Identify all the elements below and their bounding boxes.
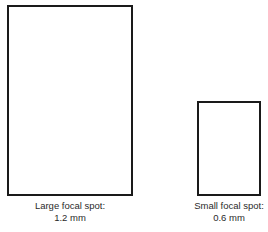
large-focal-spot-title: Large focal spot: xyxy=(20,200,120,212)
small-focal-spot-rect xyxy=(197,101,261,196)
small-focal-spot-label: Small focal spot: 0.6 mm xyxy=(186,200,268,224)
large-focal-spot-label: Large focal spot: 1.2 mm xyxy=(20,200,120,224)
large-focal-spot-value: 1.2 mm xyxy=(20,212,120,224)
large-focal-spot-rect xyxy=(7,5,133,196)
small-focal-spot-title: Small focal spot: xyxy=(186,200,268,212)
small-focal-spot-value: 0.6 mm xyxy=(186,212,268,224)
